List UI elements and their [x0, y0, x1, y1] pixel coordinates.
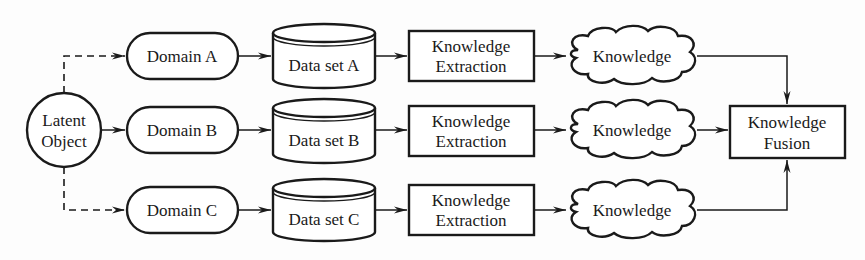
dataset-c-label: Data set C [289, 210, 360, 229]
domain-b-label: Domain B [147, 121, 217, 140]
arrow-knowledge-a-to-fusion [697, 56, 787, 104]
latent-object-node: Latent Object [27, 93, 101, 167]
dashed-arrow-to-domain-a [64, 56, 125, 93]
extraction-a-node: Knowledge Extraction [409, 31, 534, 81]
domain-a-label: Domain A [147, 47, 218, 66]
domain-c-node: Domain C [127, 187, 238, 233]
extraction-a-label-line2: Extraction [436, 57, 507, 76]
fusion-label-line2: Fusion [764, 134, 811, 153]
domain-b-node: Domain B [127, 107, 238, 153]
dashed-arrow-to-domain-c [64, 167, 125, 210]
dataset-a-node: Data set A [273, 24, 375, 88]
knowledge-b-label: Knowledge [593, 121, 671, 140]
domain-a-node: Domain A [127, 33, 238, 79]
extraction-b-label-line2: Extraction [436, 132, 507, 151]
knowledge-c-label: Knowledge [593, 201, 671, 220]
dataset-a-label: Data set A [289, 56, 361, 75]
extraction-b-label-line1: Knowledge [432, 112, 510, 131]
knowledge-b-cloud: Knowledge [571, 100, 695, 158]
knowledge-c-cloud: Knowledge [571, 180, 695, 238]
latent-object-label-line2: Object [41, 132, 87, 151]
extraction-c-label-line1: Knowledge [432, 191, 510, 210]
knowledge-fusion-diagram: Latent Object Domain A Domain B Domain C… [0, 0, 865, 260]
latent-object-label-line1: Latent [42, 111, 86, 130]
dataset-b-node: Data set B [273, 99, 375, 163]
knowledge-a-cloud: Knowledge [571, 26, 695, 84]
fusion-label-line1: Knowledge [748, 113, 826, 132]
extraction-c-node: Knowledge Extraction [409, 185, 534, 235]
dataset-c-node: Data set C [273, 179, 375, 241]
extraction-b-node: Knowledge Extraction [409, 106, 534, 156]
arrow-knowledge-c-to-fusion [697, 160, 787, 210]
domain-c-label: Domain C [147, 201, 217, 220]
knowledge-fusion-node: Knowledge Fusion [730, 106, 845, 158]
dataset-b-label: Data set B [289, 131, 360, 150]
knowledge-a-label: Knowledge [593, 47, 671, 66]
extraction-c-label-line2: Extraction [436, 211, 507, 230]
extraction-a-label-line1: Knowledge [432, 37, 510, 56]
